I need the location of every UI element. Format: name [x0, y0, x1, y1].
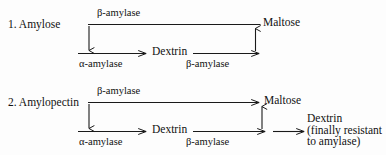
scheme1-left-enzyme-label: α-amylase [79, 59, 122, 70]
scheme1-product-maltose: Maltose [263, 17, 300, 29]
scheme1-top-enzyme-label: β-amylase [97, 8, 140, 19]
scheme2-residual-dextrin-note: Dextrin (finally resistant to amylase) [307, 113, 386, 148]
scheme2-top-enzyme-label: β-amylase [97, 86, 140, 97]
scheme2-intermediate-dextrin: Dextrin [152, 124, 187, 136]
scheme2-right-enzyme-label: β-amylase [186, 137, 229, 148]
residual-dextrin-line-1: Dextrin [307, 113, 386, 125]
scheme1-right-enzyme-label: β-amylase [186, 59, 229, 70]
residual-dextrin-line-3: to amylase) [307, 136, 386, 148]
scheme2-left-enzyme-label: α-amylase [79, 137, 122, 148]
scheme2-product-maltose: Maltose [264, 95, 301, 107]
pathway-diagram: 1. Amylose β-amylase Maltose α-amylase D… [0, 0, 386, 155]
scheme1-intermediate-dextrin: Dextrin [152, 46, 187, 58]
scheme1-index-label: 1. Amylose [8, 19, 60, 31]
scheme2-index-label: 2. Amylopectin [8, 97, 79, 109]
